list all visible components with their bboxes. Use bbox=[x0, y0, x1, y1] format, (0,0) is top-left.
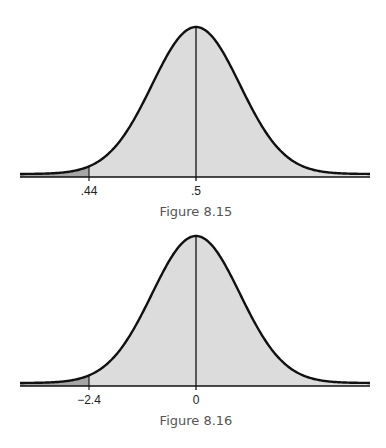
center-tick-label: 0 bbox=[193, 393, 200, 407]
cutoff-tick-label: .44 bbox=[81, 184, 98, 198]
left-tail-shading bbox=[20, 375, 89, 386]
center-tick-label: .5 bbox=[191, 184, 201, 198]
normal-curve-chart: .44 .5 Figure 8.15 bbox=[0, 0, 386, 224]
figure-caption: Figure 8.15 bbox=[160, 204, 233, 219]
cutoff-tick-label: −2.4 bbox=[77, 393, 101, 407]
figure-caption: Figure 8.16 bbox=[160, 413, 233, 428]
figure-8-16: −2.4 0 Figure 8.16 bbox=[0, 224, 386, 448]
curve-area-fill bbox=[20, 27, 370, 177]
normal-curve-chart: −2.4 0 Figure 8.16 bbox=[0, 224, 386, 448]
left-tail-shading bbox=[20, 166, 89, 177]
curve-area-fill bbox=[20, 236, 370, 386]
figure-8-15: .44 .5 Figure 8.15 bbox=[0, 0, 386, 224]
